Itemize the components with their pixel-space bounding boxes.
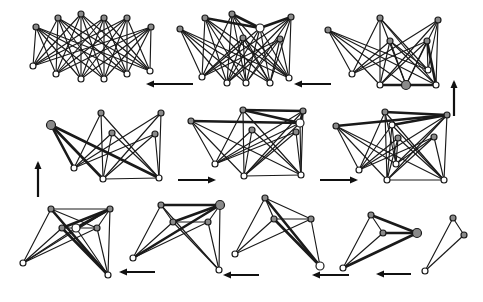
white-vertex	[433, 82, 439, 88]
edges	[23, 209, 110, 275]
graph-edge	[398, 138, 444, 180]
white-vertex	[78, 76, 84, 82]
white-vertex	[71, 165, 77, 171]
graph-edge	[235, 219, 311, 254]
graph-edge	[444, 115, 447, 180]
graph-panel-2	[177, 11, 294, 86]
white-vertex	[241, 173, 247, 179]
gray-vertex	[152, 131, 158, 137]
white-vertex	[156, 175, 162, 181]
white-vertex	[340, 265, 346, 271]
edges	[328, 18, 438, 85]
graph-panel-6	[333, 109, 450, 183]
gray-vertex	[377, 15, 383, 21]
gray-vertex	[229, 11, 235, 17]
gray-vertex	[202, 15, 208, 21]
graph-edge	[191, 121, 244, 176]
graph-edge	[56, 18, 58, 74]
graph-edge	[385, 112, 447, 115]
graph-edge	[235, 219, 274, 254]
graph-edge	[133, 222, 208, 258]
graph-edge	[33, 18, 127, 66]
gray-vertex	[293, 129, 299, 135]
gray-vertex	[277, 36, 283, 42]
gray-vertex	[158, 110, 164, 116]
gray-vertex	[148, 24, 154, 30]
edges	[191, 110, 303, 176]
graph-edge	[252, 130, 301, 175]
graph-edge	[23, 228, 76, 263]
white-vertex	[224, 80, 230, 86]
gray-vertex	[300, 108, 306, 114]
gray-vertex	[240, 35, 246, 41]
white-vertex	[130, 255, 136, 261]
gray-vertex	[59, 225, 65, 231]
white-vertex	[212, 161, 218, 167]
gray-vertex	[435, 17, 441, 23]
graph-edge	[371, 215, 417, 233]
gray-vertex	[382, 109, 388, 115]
graph-panel-10	[340, 212, 422, 271]
graph-edge	[244, 132, 296, 176]
gray-vertex	[205, 219, 211, 225]
gray-vertex	[94, 225, 100, 231]
gray-vertex	[402, 81, 411, 90]
gray-vertex	[288, 14, 294, 20]
graph-edge	[328, 30, 406, 85]
graph-panel-9	[232, 195, 324, 270]
gray-vertex	[47, 121, 56, 130]
white-vertex	[72, 224, 80, 232]
white-vertex	[316, 262, 324, 270]
edges	[51, 113, 161, 179]
graph-edge	[150, 27, 151, 71]
graph-edge	[235, 198, 265, 254]
graph-edge	[243, 110, 244, 176]
graph-edge	[180, 29, 270, 83]
white-vertex	[377, 82, 383, 88]
graph-edge	[103, 178, 159, 179]
graph-edge	[108, 209, 110, 275]
graph-edge	[191, 121, 300, 123]
graph-edge	[173, 222, 219, 270]
gray-vertex	[101, 15, 107, 21]
gray-vertex	[413, 229, 422, 238]
gray-vertex	[444, 112, 450, 118]
graph-edge	[244, 175, 301, 176]
edges	[180, 14, 291, 83]
graph-panel-8	[130, 201, 225, 274]
white-vertex	[124, 71, 130, 77]
gray-vertex	[262, 195, 268, 201]
white-vertex	[384, 177, 390, 183]
gray-vertex	[461, 232, 467, 238]
white-vertex	[256, 24, 264, 32]
nodes	[340, 212, 422, 271]
edges	[33, 14, 151, 79]
gray-vertex	[431, 134, 437, 140]
graph-panel-7	[20, 206, 113, 278]
gray-vertex	[177, 26, 183, 32]
gray-vertex	[424, 38, 430, 44]
gray-vertex	[216, 201, 225, 210]
graph-panel-11	[422, 215, 467, 274]
gray-vertex	[188, 118, 194, 124]
white-vertex	[30, 63, 36, 69]
gray-vertex	[33, 24, 39, 30]
edges	[343, 215, 417, 268]
gray-vertex	[98, 110, 104, 116]
gray-vertex	[158, 202, 164, 208]
graph-panels	[20, 11, 467, 278]
gray-vertex	[387, 38, 393, 44]
graph-edge	[343, 233, 417, 268]
white-vertex	[298, 172, 304, 178]
gray-vertex	[170, 219, 176, 225]
gray-vertex	[124, 15, 130, 21]
gray-vertex	[55, 15, 61, 21]
graph-panel-5	[188, 107, 306, 179]
white-vertex	[243, 80, 249, 86]
white-vertex	[53, 71, 59, 77]
graph-panel-4	[47, 110, 165, 182]
graph-edge	[380, 41, 390, 85]
white-vertex	[286, 75, 292, 81]
graph-panel-1	[30, 11, 154, 82]
graph-edge	[23, 228, 62, 263]
